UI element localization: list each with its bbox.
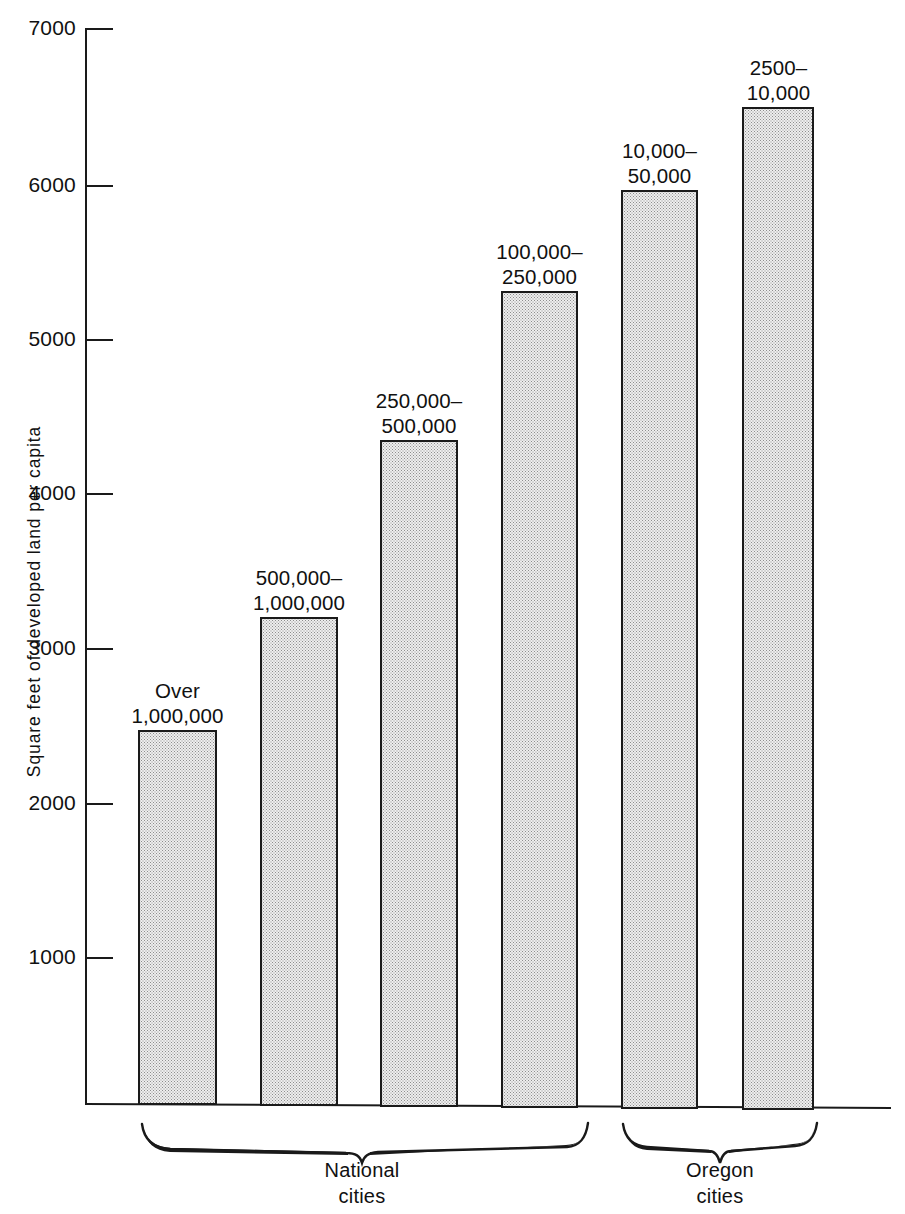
y-tick-7000 (86, 28, 113, 30)
bar-over-1000000 (138, 730, 217, 1105)
y-tick-label-wrap-6000: 6000 (0, 173, 76, 197)
bar-label-line2: 1,000,000 (98, 703, 257, 728)
bar-10000-50000 (621, 190, 698, 1109)
bar-label-2500-10000: 2500– 10,000 (700, 55, 857, 105)
bar-label-10000-50000: 10,000– 50,000 (582, 138, 737, 188)
bar-label-line1: 10,000– (582, 138, 737, 163)
bar-label-line2: 10,000 (700, 80, 857, 105)
bar-250000-500000 (380, 440, 458, 1107)
y-tick-4000 (86, 493, 113, 495)
bar-label-500000-1000000: 500,000– 1,000,000 (219, 565, 379, 615)
group-label-line2: cities (282, 1183, 442, 1209)
y-tick-2000 (86, 803, 113, 805)
group-label-national-cities: National cities (282, 1157, 442, 1209)
y-tick-6000 (86, 185, 113, 187)
bar-500000-1000000 (260, 617, 338, 1106)
y-tick-1000 (86, 957, 113, 959)
y-tick-label-wrap-1000: 1000 (0, 945, 76, 969)
bar-label-250000-500000: 250,000– 500,000 (339, 388, 499, 438)
group-label-line2: cities (640, 1183, 800, 1209)
bar-label-line1: 2500– (700, 55, 857, 80)
y-tick-5000 (86, 339, 113, 341)
bar-label-line2: 1,000,000 (219, 590, 379, 615)
y-axis-line (85, 28, 87, 1105)
bar-label-line1: Over (98, 678, 257, 703)
group-label-line1: National (282, 1157, 442, 1183)
bar-label-line1: 500,000– (219, 565, 379, 590)
bar-label-line1: 100,000– (460, 239, 619, 264)
y-tick-label-wrap-7000: 7000 (0, 16, 76, 40)
bar-label-over-1000000: Over 1,000,000 (98, 678, 257, 728)
y-axis-title: Square feet of developed land per capita (24, 282, 45, 922)
bar-label-line2: 500,000 (339, 413, 499, 438)
y-tick-label-1000: 1000 (28, 945, 76, 969)
bar-label-100000-250000: 100,000– 250,000 (460, 239, 619, 289)
group-label-line1: Oregon (640, 1157, 800, 1183)
bar-label-line2: 50,000 (582, 163, 737, 188)
bar-label-line1: 250,000– (339, 388, 499, 413)
bar-label-line2: 250,000 (460, 264, 619, 289)
y-tick-label-6000: 6000 (28, 173, 76, 197)
bar-100000-250000 (501, 291, 578, 1108)
bar-chart: 7000 6000 5000 4000 3000 2000 1000 Squar… (0, 0, 905, 1214)
bar-2500-10000 (742, 107, 814, 1110)
y-tick-3000 (86, 648, 113, 650)
y-tick-label-7000: 7000 (28, 16, 76, 40)
group-label-oregon-cities: Oregon cities (640, 1157, 800, 1209)
